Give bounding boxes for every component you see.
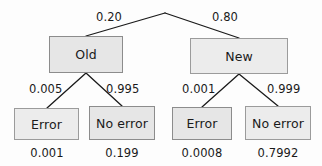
node-old-error[interactable]: Error xyxy=(14,108,79,140)
leaf-value-new-error: 0.0008 xyxy=(162,146,242,160)
node-old-no-error[interactable]: No error xyxy=(89,106,155,140)
node-new-label: New xyxy=(225,49,253,64)
probability-tree-diagram: Old New Error No error Error No error 0.… xyxy=(0,0,322,166)
node-new-no-error-label: No error xyxy=(252,116,304,131)
branch-label-new-error: 0.001 xyxy=(182,82,215,96)
node-new-error[interactable]: Error xyxy=(172,107,232,140)
branch-label-old-no-error: 0.995 xyxy=(106,82,139,96)
branch-label-old: 0.20 xyxy=(96,10,122,24)
node-old-error-label: Error xyxy=(31,117,62,132)
node-old[interactable]: Old xyxy=(49,36,123,73)
branch-label-new: 0.80 xyxy=(212,10,238,24)
branch-label-old-error: 0.005 xyxy=(29,82,62,96)
leaf-value-new-no-error: 0.7992 xyxy=(238,146,318,160)
node-new[interactable]: New xyxy=(190,38,288,74)
node-old-label: Old xyxy=(75,47,97,62)
leaf-value-old-no-error: 0.199 xyxy=(82,146,162,160)
leaf-value-old-error: 0.001 xyxy=(7,146,87,160)
node-new-no-error[interactable]: No error xyxy=(245,106,311,140)
node-old-no-error-label: No error xyxy=(96,116,148,131)
node-new-error-label: Error xyxy=(187,116,218,131)
branch-label-new-no-error: 0.999 xyxy=(267,82,300,96)
